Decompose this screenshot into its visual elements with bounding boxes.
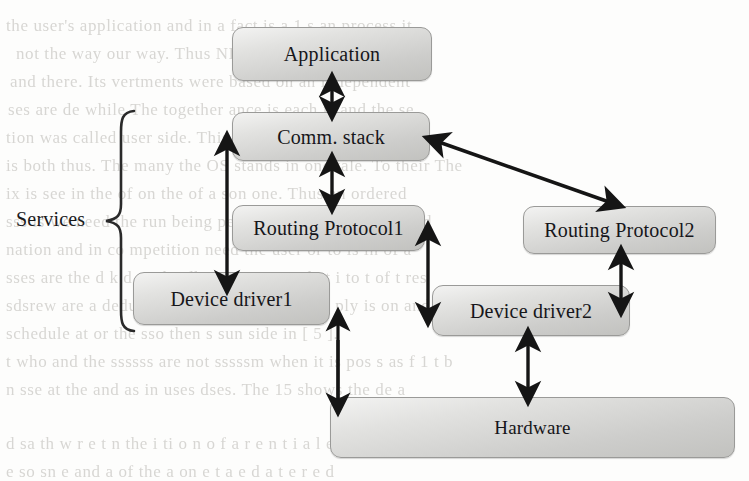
node-routing-protocol-1-label: Routing Protocol1 xyxy=(253,218,404,238)
node-hardware-label: Hardware xyxy=(494,418,571,437)
architecture-diagram: Services Application Comm. stack Routing… xyxy=(0,0,749,481)
node-device-driver-1[interactable]: Device driver1 xyxy=(133,272,330,325)
services-group-label: Services xyxy=(16,208,85,231)
node-hardware[interactable]: Hardware xyxy=(330,397,735,458)
node-comm-stack-label: Comm. stack xyxy=(277,127,385,147)
node-routing-protocol-2[interactable]: Routing Protocol2 xyxy=(523,206,716,254)
node-application-label: Application xyxy=(284,44,381,64)
node-device-driver-1-label: Device driver1 xyxy=(170,289,292,309)
node-application[interactable]: Application xyxy=(232,27,432,81)
node-device-driver-2[interactable]: Device driver2 xyxy=(432,285,630,336)
figure-page: the user's application and in a fact is … xyxy=(0,0,749,481)
node-routing-protocol-1[interactable]: Routing Protocol1 xyxy=(232,205,425,251)
node-comm-stack[interactable]: Comm. stack xyxy=(232,112,430,161)
node-device-driver-2-label: Device driver2 xyxy=(470,301,592,321)
node-routing-protocol-2-label: Routing Protocol2 xyxy=(544,220,695,240)
